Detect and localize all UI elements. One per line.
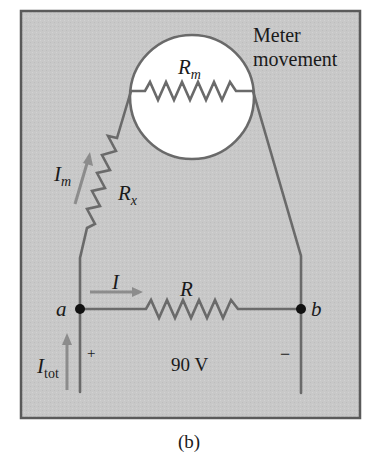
figure-caption: (b) [178,431,200,453]
minus-sign: − [280,344,290,364]
node-b-dot [296,304,306,314]
meter-label-line1: Meter [253,24,301,46]
node-a-dot [75,304,85,314]
circuit-diagram: Meter movement Rm Im Rx I R a b Itot + −… [0,0,376,456]
node-b-label: b [311,297,322,321]
plus-sign: + [87,345,95,361]
node-a-label: a [56,297,67,321]
meter-label-line2: movement [253,48,338,70]
r-label: R [179,277,193,301]
voltage-label: 90 V [171,354,208,375]
i-label: I [111,270,120,294]
